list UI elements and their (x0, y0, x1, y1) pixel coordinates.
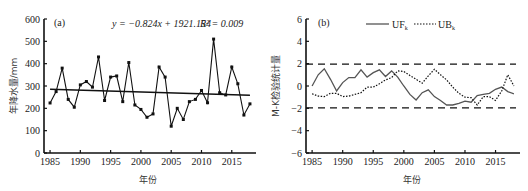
panel-a-x-axis-title: 年份 (139, 174, 157, 185)
svg-text:0: 0 (297, 81, 302, 92)
precipitation-markers (49, 38, 252, 128)
ufk-line (312, 69, 514, 105)
precipitation-line (50, 39, 250, 126)
svg-text:1985: 1985 (40, 156, 60, 167)
svg-text:600: 600 (25, 14, 40, 25)
svg-text:1990: 1990 (70, 156, 90, 167)
svg-text:−4: −4 (291, 125, 302, 136)
panel-a-label: (a) (54, 17, 65, 29)
svg-text:1990: 1990 (333, 156, 353, 167)
svg-text:2015: 2015 (222, 156, 242, 167)
svg-text:300: 300 (25, 81, 40, 92)
svg-text:500: 500 (25, 36, 40, 47)
legend-ufk-label: UFk (392, 19, 408, 31)
svg-text:2005: 2005 (161, 156, 181, 167)
regression-equation: y = −0.824x + 1921.154 (111, 18, 211, 29)
r-squared-label: R² = 0.009 (199, 18, 243, 29)
svg-text:2000: 2000 (131, 156, 151, 167)
panel-a-y-axis-title: 年降水量/mm (8, 58, 19, 115)
svg-text:6: 6 (297, 14, 302, 25)
panel-b-axes (306, 19, 520, 153)
panel-b-label: (b) (318, 17, 330, 29)
panel-a-axes (44, 19, 256, 153)
svg-text:1995: 1995 (363, 156, 383, 167)
svg-text:2010: 2010 (191, 156, 211, 167)
figure-svg: 0100200300400500600 19851990199520002005… (0, 0, 528, 191)
svg-text:2000: 2000 (394, 156, 414, 167)
panel-a-precipitation-chart: 0100200300400500600 19851990199520002005… (8, 14, 256, 186)
panel-b-x-axis-title: 年份 (403, 174, 421, 185)
svg-text:4: 4 (297, 36, 302, 47)
svg-text:1985: 1985 (302, 156, 322, 167)
panel-b-mk-test-chart: −6−4−20246 1985199019952000200520102015 … (270, 14, 520, 186)
legend-ubk-label: UBk (438, 19, 455, 31)
panel-b-y-axis-title: M-K检验统计量 (270, 55, 281, 117)
svg-text:1995: 1995 (101, 156, 121, 167)
svg-text:200: 200 (25, 103, 40, 114)
svg-text:2005: 2005 (424, 156, 444, 167)
svg-text:400: 400 (25, 58, 40, 69)
legend: UFk UBk (366, 19, 455, 31)
svg-text:2: 2 (297, 58, 302, 69)
svg-text:−2: −2 (291, 103, 302, 114)
svg-text:2010: 2010 (455, 156, 475, 167)
svg-text:100: 100 (25, 125, 40, 136)
figure: 0100200300400500600 19851990199520002005… (0, 0, 528, 191)
ubk-line (312, 69, 514, 105)
svg-text:−6: −6 (291, 148, 302, 159)
svg-text:2015: 2015 (486, 156, 506, 167)
